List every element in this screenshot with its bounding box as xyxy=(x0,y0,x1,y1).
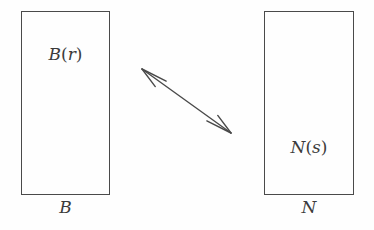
arrowhead-upper-left-barb-1 xyxy=(142,69,155,87)
arrowhead-lower-right-barb-2 xyxy=(207,121,231,133)
right-rectangle-N xyxy=(264,11,354,195)
left-rectangle-B xyxy=(21,11,110,195)
left-box-caption: B xyxy=(21,199,110,216)
open-paren-left: ( xyxy=(61,44,68,64)
right-box-label-arg: s xyxy=(312,137,321,157)
left-box-inner-label: B(r) xyxy=(21,46,110,63)
left-box-label-letter: B xyxy=(49,44,62,64)
close-paren-left: ) xyxy=(76,44,83,64)
arrowhead-lower-right-barb-1 xyxy=(218,115,231,133)
left-box-label-arg: r xyxy=(68,44,76,64)
right-box-inner-label: N(s) xyxy=(264,139,354,156)
arrow-shaft xyxy=(142,69,231,133)
right-box-caption: N xyxy=(264,199,354,216)
right-box-label-letter: N xyxy=(291,137,306,157)
arrowhead-upper-left-barb-2 xyxy=(142,69,166,81)
close-paren-right: ) xyxy=(321,137,328,157)
diagram-canvas: B(r) B N(s) N xyxy=(0,0,374,230)
